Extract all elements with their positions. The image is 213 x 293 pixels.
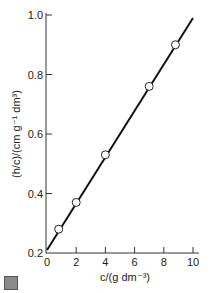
y-tick-label: 0.6 (28, 128, 43, 140)
data-point (55, 225, 63, 233)
x-axis-label: c/(g dm⁻³) (100, 271, 150, 283)
y-tick-label: 0.2 (28, 247, 43, 259)
expand-icon[interactable] (4, 276, 18, 290)
fit-line (47, 18, 193, 250)
data-point (145, 82, 153, 90)
x-tick-label: 10 (187, 256, 199, 268)
y-tick-label: 0.4 (28, 188, 43, 200)
y-axis-label: (h/c)/(cm g⁻¹ dm³) (10, 90, 22, 178)
x-tick-label: 0 (44, 256, 50, 268)
y-tick-label: 1.0 (28, 9, 43, 21)
x-tick-label: 6 (132, 256, 138, 268)
data-point (171, 41, 179, 49)
x-tick-label: 2 (73, 256, 79, 268)
data-point (72, 198, 80, 206)
x-tick-label: 4 (102, 256, 108, 268)
x-tick-label: 8 (161, 256, 167, 268)
y-tick-label: 0.8 (28, 69, 43, 81)
chart: 02468100.20.40.60.81.0c/(g dm⁻³)(h/c)/(c… (0, 0, 213, 293)
data-point (101, 151, 109, 159)
